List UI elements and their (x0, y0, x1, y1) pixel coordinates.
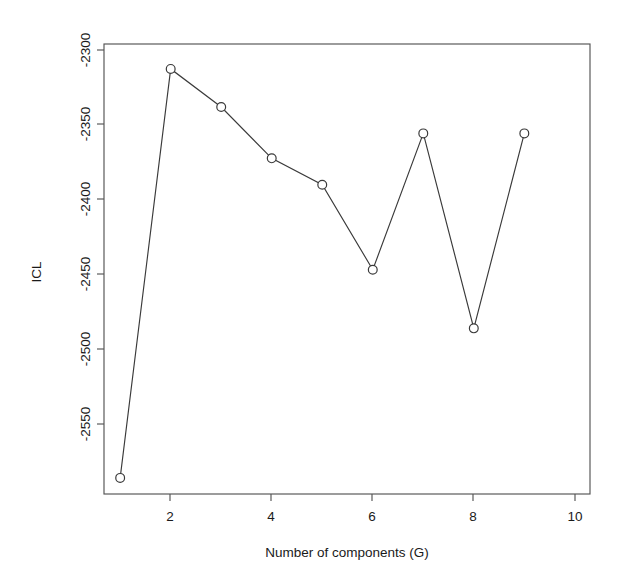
data-point-marker (520, 129, 529, 138)
data-point-marker (116, 473, 125, 482)
y-tick-label-4: -2500 (78, 332, 93, 367)
x-tick-label-2: 6 (368, 509, 376, 524)
x-axis-title: Number of components (G) (265, 545, 429, 560)
y-tick-label-5: -2550 (78, 407, 93, 442)
data-point-marker (217, 103, 226, 112)
data-point-marker (368, 265, 377, 274)
chart-background (0, 0, 623, 588)
y-tick-label-1: -2350 (78, 107, 93, 142)
y-tick-label-3: -2450 (78, 257, 93, 292)
y-tick-label-0: -2300 (78, 33, 93, 68)
x-tick-label-4: 10 (567, 509, 582, 524)
data-point-marker (419, 129, 428, 138)
x-tick-label-0: 2 (166, 509, 174, 524)
y-axis-title: ICL (29, 261, 44, 283)
data-point-marker (267, 154, 276, 163)
x-tick-label-1: 4 (267, 509, 275, 524)
data-point-marker (469, 324, 478, 333)
chart-figure: -2300 -2350 -2400 -2450 -2500 -2550 2 4 … (0, 0, 623, 588)
x-tick-label-3: 8 (469, 509, 477, 524)
y-tick-label-2: -2400 (78, 182, 93, 217)
data-point-marker (318, 180, 327, 189)
data-point-marker (166, 65, 175, 74)
icl-line-chart: -2300 -2350 -2400 -2450 -2500 -2550 2 4 … (0, 0, 623, 588)
